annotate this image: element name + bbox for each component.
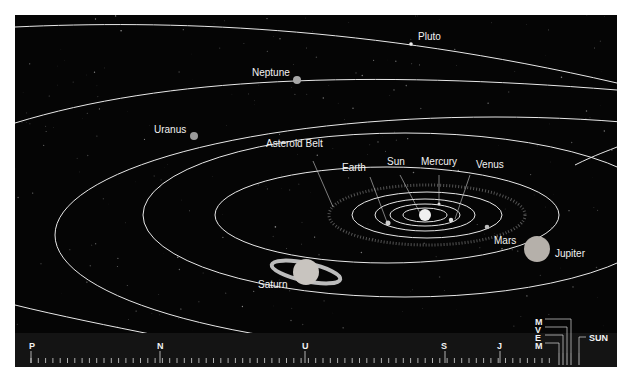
label-venus: Venus xyxy=(476,159,504,170)
scale-marker-saturn: S xyxy=(441,341,447,351)
orbit-uranus xyxy=(55,117,617,353)
scale-marker-uranus: U xyxy=(302,341,309,351)
orbit-pluto xyxy=(15,25,617,83)
label-asteroid-belt: Asteroid Belt xyxy=(266,138,323,149)
orbit-neptune-lower xyxy=(15,305,155,335)
jupiter-body xyxy=(524,236,550,262)
mars-body xyxy=(485,225,490,230)
label-pluto: Pluto xyxy=(418,31,441,42)
uranus-body xyxy=(190,132,198,140)
orbits xyxy=(15,25,617,353)
orbit-neptune xyxy=(15,79,617,123)
label-sun: Sun xyxy=(387,156,405,167)
neptune-body xyxy=(293,76,301,84)
label-earth: Earth xyxy=(342,162,366,173)
orbit-outer-right xyxy=(575,147,617,165)
mercury-body xyxy=(438,203,441,206)
scale-inner-mercury: M xyxy=(535,341,543,351)
scale-sun-label: SUN xyxy=(589,333,608,343)
orbit-canvas: Pluto Neptune Uranus Asteroid Belt Earth… xyxy=(15,15,617,367)
label-neptune: Neptune xyxy=(252,67,290,78)
label-mercury: Mercury xyxy=(421,156,457,167)
sun-body xyxy=(419,209,431,221)
earth-body xyxy=(386,221,391,226)
scale-marker-neptune: N xyxy=(157,341,164,351)
solar-system-diagram: Pluto Neptune Uranus Asteroid Belt Earth… xyxy=(15,15,617,367)
scale-marker-jupiter: J xyxy=(497,341,502,351)
orbit-jupiter xyxy=(215,167,559,263)
venus-body xyxy=(449,218,453,222)
label-saturn: Saturn xyxy=(258,279,287,290)
label-mars: Mars xyxy=(494,235,516,246)
orbit-saturn xyxy=(143,133,617,297)
label-jupiter: Jupiter xyxy=(555,248,586,259)
label-uranus: Uranus xyxy=(154,124,186,135)
scale-marker-pluto: P xyxy=(29,341,35,351)
pluto-body xyxy=(409,42,413,46)
